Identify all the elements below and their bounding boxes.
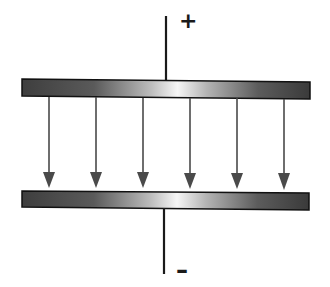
arrow-head-icon	[184, 173, 196, 189]
arrow-head-icon	[43, 172, 55, 188]
arrow-head-icon	[278, 173, 290, 190]
arrow-head-icon	[90, 172, 102, 188]
arrow-head-icon	[137, 172, 149, 188]
arrow-head-icon	[231, 173, 243, 189]
positive-sign-label: +	[179, 10, 197, 32]
electric-field-arrows	[43, 97, 290, 190]
capacitor-diagram	[0, 0, 330, 287]
bottom-plate-negative	[22, 191, 309, 210]
top-plate-positive	[22, 79, 310, 99]
negative-sign-label: –	[176, 258, 188, 282]
